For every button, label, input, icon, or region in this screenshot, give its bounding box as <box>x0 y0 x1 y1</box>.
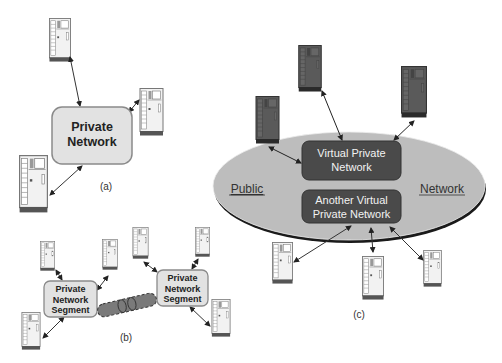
link-arrow <box>192 259 198 269</box>
segment-right-label-2: Network <box>165 284 202 294</box>
link-arrow <box>144 262 157 272</box>
link-arrow <box>50 166 82 195</box>
panel-c: Public Network Virtual Private Network A… <box>213 45 486 320</box>
link-arrow <box>97 276 108 290</box>
caption-c: (c) <box>353 309 365 320</box>
server-icon <box>272 242 292 283</box>
server-icon <box>256 97 279 144</box>
server-icon <box>424 250 442 286</box>
server-icon <box>212 299 230 336</box>
network-diagram: Private Network (a) Private Network Segm… <box>0 0 502 363</box>
link-arrow <box>129 100 139 112</box>
segment-left-label-3: Segment <box>51 305 89 315</box>
server-icon <box>140 89 163 136</box>
link-arrow <box>43 317 64 338</box>
network-label: Network <box>420 182 465 196</box>
link-arrow <box>56 270 62 280</box>
another-vpn-label-2: Private Network <box>313 208 391 220</box>
server-icon <box>402 67 427 118</box>
vpn-label-2: Network <box>331 161 372 173</box>
tunnel-pipe <box>96 292 157 318</box>
vpn-label-1: Virtual Private <box>317 147 385 159</box>
private-network-label-2: Network <box>67 135 116 149</box>
server-icon <box>20 156 48 213</box>
server-icon <box>299 45 322 91</box>
caption-a: (a) <box>100 181 112 192</box>
server-icon <box>133 227 148 258</box>
segment-left-label-2: Network <box>53 295 90 305</box>
segment-right-label-1: Private <box>167 273 197 283</box>
server-icon <box>40 241 54 270</box>
another-vpn-label-1: Another Virtual <box>315 194 388 206</box>
server-icon <box>103 239 118 269</box>
caption-b: (b) <box>120 332 132 343</box>
private-network-label-1: Private <box>71 120 113 134</box>
server-icon <box>362 256 383 299</box>
link-arrow <box>70 57 80 106</box>
panel-b: Private Network Segment Private Network … <box>22 227 230 349</box>
server-icon <box>22 312 40 349</box>
server-icon <box>49 18 70 61</box>
public-label: Public <box>231 182 264 196</box>
server-icon <box>195 227 209 256</box>
segment-right-label-3: Segment <box>163 294 201 304</box>
segment-left-label-1: Private <box>55 284 85 294</box>
link-arrow <box>190 307 210 326</box>
panel-a: Private Network (a) <box>20 18 163 212</box>
